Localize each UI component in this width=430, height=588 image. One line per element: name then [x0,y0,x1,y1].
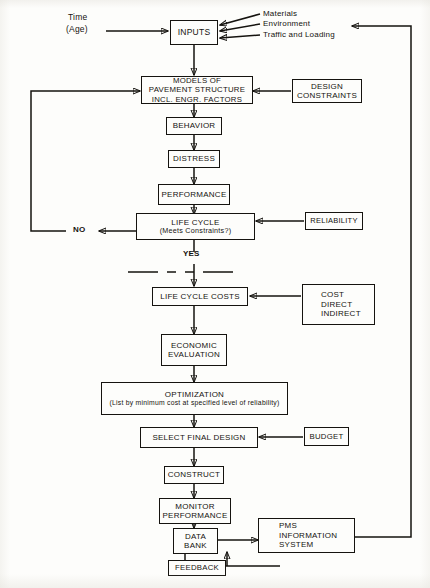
node-economic-evaluation-line2: EVALUATION [168,350,220,359]
label-time-age: (Age) [66,24,88,34]
node-cost-line2: DIRECT [321,300,352,309]
label-feed-traffic-and-loading: Traffic and Loading [263,30,335,39]
node-pms-information-system[interactable]: PMS INFORMATION SYSTEM [258,518,355,553]
node-distress[interactable]: DISTRESS [168,150,220,168]
label-time: Time [68,12,87,22]
node-reliability[interactable]: RELIABILITY [305,212,363,230]
node-economic-evaluation-line1: ECONOMIC [171,341,217,350]
node-performance[interactable]: PERFORMANCE [158,184,230,205]
node-life-cycle-decision[interactable]: LIFE CYCLE (Meets Constraints?) [136,213,255,240]
label-feed-materials: Materials [263,9,297,18]
node-feedback-label: FEEDBACK [175,563,219,572]
node-cost[interactable]: COST DIRECT INDIRECT [302,284,375,325]
node-monitor-performance-line2: PERFORMANCE [163,511,228,520]
node-life-cycle-line2: (Meets Constraints?) [160,227,232,235]
wire-traffic-to-inputs [220,35,260,38]
node-cost-line1: COST [321,290,344,299]
node-inputs[interactable]: INPUTS [170,20,218,45]
node-performance-label: PERFORMANCE [162,190,227,199]
node-distress-label: DISTRESS [173,154,215,163]
label-decision-yes: YES [183,249,200,258]
node-construct[interactable]: CONSTRUCT [164,466,224,484]
wire-environment-to-inputs [220,24,260,31]
node-budget-label: BUDGET [310,432,344,441]
wire-materials-to-inputs [220,14,260,25]
node-life-cycle-costs[interactable]: LIFE CYCLE COSTS [152,287,248,306]
flowchart-canvas: left feedback to MODELS --> down through… [0,0,430,588]
node-pms-line2: INFORMATION [279,531,337,540]
node-budget[interactable]: BUDGET [304,427,349,446]
node-models-line1: MODELS OF [173,76,221,85]
node-optimization-line1: OPTIMIZATION [165,390,224,399]
node-feedback[interactable]: FEEDBACK [168,560,226,576]
node-models-line2: PAVEMENT STRUCTURE [149,85,245,94]
node-inputs-label: INPUTS [178,27,211,37]
node-behavior-label: BEHAVIOR [173,121,216,130]
node-pms-line3: SYSTEM [279,540,313,549]
wire-no-loop-to-models [31,91,140,231]
node-optimization[interactable]: OPTIMIZATION (List by minimum cost at sp… [101,382,288,415]
node-models-line3: INCL. ENGR. FACTORS [152,95,242,104]
node-design-constraints-line1: DESIGN [311,82,343,91]
label-decision-no: NO [73,225,85,234]
node-design-constraints[interactable]: DESIGN CONSTRAINTS [292,79,362,103]
node-optimization-line2: (List by minimum cost at specified level… [109,399,279,407]
node-design-constraints-line2: CONSTRAINTS [297,91,357,100]
node-economic-evaluation[interactable]: ECONOMIC EVALUATION [161,334,227,366]
node-select-final-design-label: SELECT FINAL DESIGN [152,433,245,442]
node-reliability-label: RELIABILITY [310,217,357,226]
node-monitor-performance-line1: MONITOR [175,502,214,511]
node-models-of-pavement-structure[interactable]: MODELS OF PAVEMENT STRUCTURE INCL. ENGR.… [141,76,253,104]
node-data-bank-line2: BANK [184,541,207,550]
node-construct-label: CONSTRUCT [168,470,220,479]
node-behavior[interactable]: BEHAVIOR [166,117,222,135]
node-life-cycle-costs-label: LIFE CYCLE COSTS [160,292,240,301]
node-monitor-performance[interactable]: MONITOR PERFORMANCE [159,498,231,524]
node-select-final-design[interactable]: SELECT FINAL DESIGN [140,427,258,448]
node-data-bank[interactable]: DATA BANK [173,528,218,554]
label-feed-environment: Environment [263,19,310,28]
node-pms-line1: PMS [279,521,297,530]
node-cost-line3: INDIRECT [321,309,361,318]
node-data-bank-line1: DATA [185,532,206,541]
